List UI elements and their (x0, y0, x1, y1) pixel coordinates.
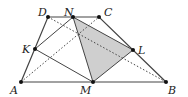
diagonal-db (48, 17, 166, 82)
label-c: C (104, 6, 113, 19)
label-b: B (167, 84, 176, 97)
point-k (33, 47, 37, 51)
point-c (97, 15, 101, 19)
label-d: D (37, 6, 47, 19)
trapezoid-diagram: A B C D K L M N (0, 0, 188, 97)
label-m: M (79, 84, 92, 97)
label-l: L (137, 44, 145, 57)
label-a: A (9, 84, 18, 97)
segment-kn (35, 17, 73, 49)
label-k: K (21, 43, 31, 56)
shaded-triangle-nlm (73, 17, 133, 82)
point-l (131, 48, 135, 52)
point-m (91, 80, 95, 84)
point-a (19, 80, 23, 84)
label-n: N (63, 6, 74, 19)
